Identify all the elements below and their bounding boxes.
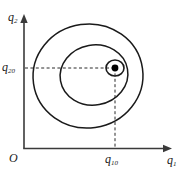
y-axis-label-subscript: 2	[14, 17, 18, 25]
y-axis-arrowhead	[20, 14, 27, 23]
phase-plane-figure: q2 q1 O q20 q10	[0, 0, 188, 174]
x-tick-label: q10	[105, 153, 118, 165]
y-tick-label-subscript: 20	[8, 67, 15, 75]
y-tick-label: q20	[2, 61, 15, 73]
x-axis-label: q1	[167, 154, 177, 166]
x-axis-arrowhead	[163, 145, 172, 152]
phase-plane-plot	[0, 0, 188, 174]
x-axis-label-subscript: 1	[173, 160, 177, 168]
middle-orbit-curve	[55, 40, 132, 111]
origin-label: O	[9, 152, 18, 164]
equilibrium-point-marker	[112, 65, 119, 72]
outer-orbit-curve	[26, 17, 149, 135]
y-axis-label: q2	[8, 11, 18, 23]
x-tick-label-subscript: 10	[111, 159, 118, 167]
